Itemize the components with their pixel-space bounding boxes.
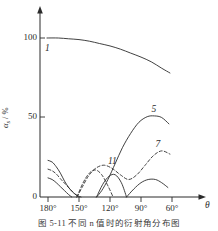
x-tick-label-180: 180° — [37, 204, 59, 213]
curve-label-1: 1 — [45, 44, 50, 54]
x-tick-marks — [48, 197, 172, 202]
figure-caption: 图 5-11 不同 n 值时的衍射角分布图 — [0, 219, 218, 228]
curve-label-11: 11 — [108, 157, 117, 167]
x-tick-label-60: 60° — [161, 204, 183, 213]
x-axis-title: θ — [205, 201, 210, 211]
y-tick-label-100: 100 — [15, 33, 37, 42]
x-tick-label-90: 90° — [130, 204, 152, 213]
curve-label-5: 5 — [151, 105, 156, 115]
y-tick-label-0: 0 — [15, 192, 37, 201]
axes-group — [37, 6, 206, 200]
data-curves-group — [47, 38, 170, 197]
y-axis-title: αs / % — [1, 107, 11, 128]
curve-7 — [77, 151, 170, 197]
curve-1 — [47, 38, 170, 73]
x-tick-label-120: 120° — [99, 204, 121, 213]
figure-container: 100 50 0 180° 150° 120° 90° 60° θ αs / %… — [0, 0, 218, 231]
y-axis-title-symbol: α — [0, 124, 10, 128]
curve-11b — [48, 169, 79, 197]
curve-11 — [48, 160, 81, 197]
y-axis-title-subscript: s — [4, 121, 11, 124]
x-axis-arrow — [199, 194, 207, 200]
curve-11f — [127, 179, 168, 197]
x-tick-label-150: 150° — [68, 204, 90, 213]
y-axis-arrow — [37, 6, 43, 14]
curve-label-7: 7 — [156, 140, 161, 150]
y-tick-label-50: 50 — [15, 112, 37, 121]
curve-11e — [77, 170, 113, 197]
y-axis-title-unit: / % — [0, 107, 10, 121]
